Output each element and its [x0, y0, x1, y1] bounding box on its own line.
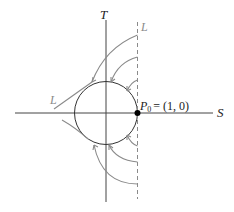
line-L-left-label: L	[49, 93, 57, 107]
point-label-subscript: 0	[147, 105, 151, 114]
t-axis-label: T	[100, 7, 108, 22]
trajectory-curves	[54, 35, 138, 184]
line-L-top-label: L	[140, 20, 148, 34]
point-P0-label: P0= (1, 0)	[139, 99, 189, 114]
point-label-value: = (1, 0)	[153, 99, 189, 113]
s-axis-label: S	[217, 105, 224, 120]
phase-diagram: T S L L P0= (1, 0)	[0, 0, 234, 212]
